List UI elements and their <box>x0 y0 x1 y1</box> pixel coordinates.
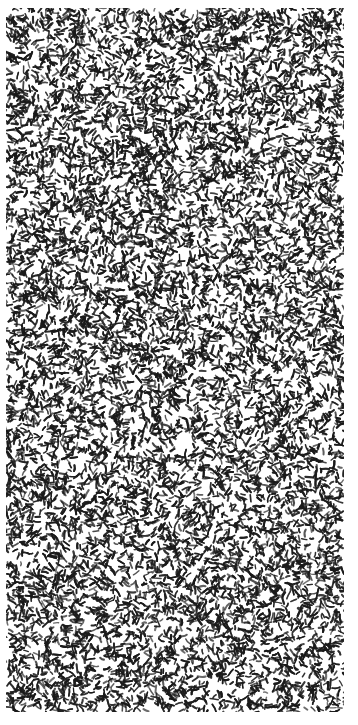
noise-pattern <box>6 8 344 712</box>
